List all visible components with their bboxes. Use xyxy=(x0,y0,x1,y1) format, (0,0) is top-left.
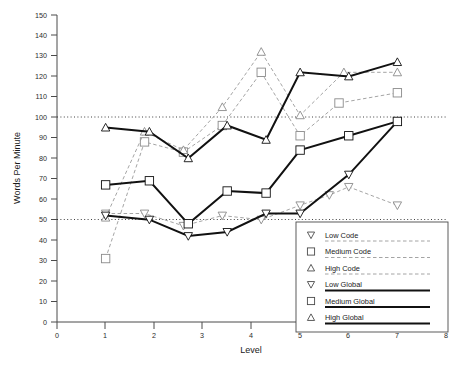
x-tick-label: 4 xyxy=(249,331,253,340)
y-tick-label: 110 xyxy=(36,92,47,101)
y-tick-label: 10 xyxy=(39,297,47,306)
data-point-marker xyxy=(345,132,353,140)
y-axis-title: Words Per Minute xyxy=(12,132,22,204)
square-icon xyxy=(307,297,314,304)
legend-label: High Code xyxy=(325,264,360,273)
data-point-marker xyxy=(296,146,304,154)
data-point-marker xyxy=(101,254,109,262)
legend-label: High Global xyxy=(325,313,364,322)
y-tick-label: 70 xyxy=(39,174,47,183)
y-tick-label: 140 xyxy=(35,31,47,40)
x-tick-label: 0 xyxy=(55,331,59,340)
legend-label: Medium Code xyxy=(325,247,371,256)
y-tick-label: 0 xyxy=(43,318,47,327)
chart-figure: 0 10 20 30 40 50 60 70 80 90 100 110 120 xyxy=(0,0,457,365)
y-tick-label: 120 xyxy=(35,72,47,81)
chart-legend: Low CodeMedium CodeHigh CodeLow GlobalMe… xyxy=(296,222,448,332)
y-tick-label: 130 xyxy=(35,51,47,60)
legend-label: Low Code xyxy=(325,231,358,240)
x-tick-label: 3 xyxy=(200,331,204,340)
x-tick-label: 1 xyxy=(103,331,107,340)
data-point-marker xyxy=(184,220,192,228)
y-tick-label: 20 xyxy=(39,277,47,286)
y-tick-label: 90 xyxy=(39,133,47,142)
y-tick-label: 30 xyxy=(39,256,47,265)
x-axis-title: Level xyxy=(240,345,262,355)
square-icon xyxy=(307,248,314,255)
data-point-marker xyxy=(101,181,109,189)
words-per-minute-line-chart: 0 10 20 30 40 50 60 70 80 90 100 110 120 xyxy=(0,0,457,365)
y-tick-label: 80 xyxy=(39,154,47,163)
y-tick-label: 100 xyxy=(35,113,47,122)
legend-label: Medium Global xyxy=(325,297,375,306)
y-tick-label: 60 xyxy=(39,195,47,204)
y-tick-label: 150 xyxy=(35,11,47,20)
data-point-marker xyxy=(296,132,304,140)
data-point-marker xyxy=(145,177,153,185)
y-tick-label: 40 xyxy=(39,236,47,245)
data-point-marker xyxy=(223,187,231,195)
data-point-marker xyxy=(393,117,401,125)
legend-box xyxy=(296,222,448,332)
data-point-marker xyxy=(335,99,343,107)
y-tick-label: 50 xyxy=(39,215,47,224)
data-point-marker xyxy=(257,68,265,76)
x-tick-label: 2 xyxy=(152,331,156,340)
legend-label: Low Global xyxy=(325,280,362,289)
data-point-marker xyxy=(393,89,401,97)
data-point-marker xyxy=(262,189,270,197)
